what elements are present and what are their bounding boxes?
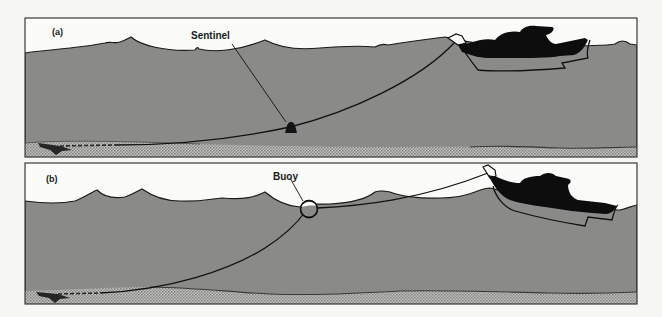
anchoring-diagram: (a) Sentinel: [0, 0, 662, 317]
panel-b: (b) Buoy: [25, 163, 637, 304]
panel-a: (a) Sentinel: [25, 18, 637, 157]
panel-b-label: (b): [46, 174, 58, 184]
diagram-canvas: (a) Sentinel: [0, 0, 662, 317]
buoy-icon: [301, 201, 318, 218]
panel-a-label: (a): [52, 27, 63, 37]
buoy-label: Buoy: [273, 171, 298, 182]
sentinel-label: Sentinel: [191, 30, 230, 41]
